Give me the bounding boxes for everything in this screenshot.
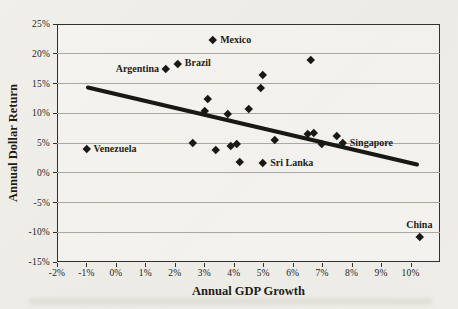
x-tick-label: 2% — [159, 267, 191, 279]
y-tick-label: 10% — [0, 107, 50, 119]
x-tick-mark — [352, 263, 353, 267]
y-tick-mark — [53, 143, 57, 144]
x-tick-label: 5% — [247, 267, 279, 279]
y-tick-mark — [53, 24, 57, 25]
x-tick-label: 0% — [100, 267, 132, 279]
x-tick-mark — [411, 263, 412, 267]
y-tick-mark — [53, 113, 57, 114]
point-label-singapore: Singapore — [350, 137, 393, 149]
point-label-venezuela: Venezuela — [93, 143, 136, 155]
gridline — [57, 83, 440, 84]
x-axis-title: Annual GDP Growth — [57, 284, 440, 300]
x-tick-label: 8% — [336, 267, 368, 279]
x-tick-label: -1% — [70, 267, 102, 279]
y-tick-mark — [53, 262, 57, 263]
point-label-argentina: Argentina — [116, 63, 159, 75]
x-tick-label: 4% — [218, 267, 250, 279]
x-tick-label: 6% — [277, 267, 309, 279]
point-label-brazil: Brazil — [185, 57, 211, 69]
x-tick-mark — [116, 263, 117, 267]
x-tick-label: 10% — [395, 267, 427, 279]
y-tick-label: -5% — [0, 197, 50, 209]
x-tick-mark — [234, 263, 235, 267]
scan-artifact — [30, 299, 432, 304]
gridline — [57, 53, 440, 54]
x-tick-label: 3% — [188, 267, 220, 279]
gridline — [57, 232, 440, 233]
x-tick-mark — [175, 263, 176, 267]
y-tick-mark — [53, 53, 57, 54]
y-tick-label: 25% — [0, 18, 50, 30]
x-tick-label: 1% — [129, 267, 161, 279]
x-tick-mark — [145, 263, 146, 267]
y-tick-label: 5% — [0, 137, 50, 149]
x-tick-mark — [57, 263, 58, 267]
x-tick-mark — [381, 263, 382, 267]
x-tick-mark — [263, 263, 264, 267]
y-tick-label: 0% — [0, 167, 50, 179]
y-tick-mark — [53, 232, 57, 233]
x-tick-label: 7% — [306, 267, 338, 279]
x-tick-label: -2% — [41, 267, 73, 279]
point-label-mexico: Mexico — [220, 34, 251, 46]
gridline — [57, 113, 440, 114]
point-label-sri-lanka: Sri Lanka — [270, 157, 313, 169]
y-tick-label: 20% — [0, 48, 50, 60]
x-tick-mark — [86, 263, 87, 267]
point-label-china: China — [379, 219, 458, 231]
x-tick-mark — [293, 263, 294, 267]
x-tick-label: 9% — [365, 267, 397, 279]
y-tick-label: -10% — [0, 226, 50, 238]
scatter-chart: Annual Dollar Return Annual GDP Growth 2… — [0, 0, 458, 309]
y-tick-mark — [53, 172, 57, 173]
y-tick-mark — [53, 83, 57, 84]
y-tick-mark — [53, 202, 57, 203]
x-tick-mark — [204, 263, 205, 267]
gridline — [57, 202, 440, 203]
gridline — [57, 172, 440, 173]
y-tick-label: 15% — [0, 78, 50, 90]
x-tick-mark — [322, 263, 323, 267]
